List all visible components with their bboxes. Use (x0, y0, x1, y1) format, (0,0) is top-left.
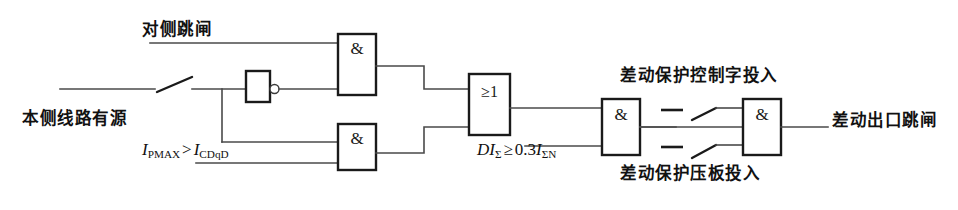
formula-disigma-operator: ≥ (501, 140, 514, 159)
formula-ipmax-operator: > (180, 140, 194, 159)
logic-diagram-canvas: & & ≥1 & & (0, 0, 958, 210)
formula-current-compare: IPMAX>ICDqD (142, 140, 229, 160)
label-diff-output-trip: 差动出口跳闸 (832, 107, 937, 131)
wire-and2-to-or1 (376, 127, 469, 153)
label-diff-plate-in: 差动保护压板投入 (620, 160, 760, 184)
and-gate-2-symbol: & (350, 129, 363, 148)
formula-disigma-lhs-prefix: DI (477, 140, 495, 159)
not-gate-1-bubble (270, 85, 279, 94)
formula-disigma-coefficient: 0.3 (515, 140, 536, 159)
open-contact-main-blade[interactable] (157, 77, 192, 92)
not-gate-1-body (246, 71, 270, 102)
label-diff-control-word-in: 差动保护控制字投入 (620, 62, 778, 86)
formula-ipmax-rhs-sub: CDqD (199, 148, 228, 160)
label-opposite-trip: 对侧跳闸 (142, 16, 212, 40)
label-local-line-energized: 本侧线路有源 (22, 105, 127, 129)
and-gate-4-symbol: & (755, 105, 768, 124)
or-gate-1-symbol: ≥1 (481, 83, 498, 100)
formula-diff-threshold: DIΣ≥0.3IΣN (477, 140, 556, 160)
formula-ipmax-lhs-sub: PMAX (148, 148, 180, 160)
wire-and1-to-or1 (376, 66, 469, 89)
formula-disigma-rhs-sub: ΣN (542, 148, 557, 160)
and-gate-1-symbol: & (350, 39, 363, 58)
open-contact-plate-blade[interactable] (692, 145, 716, 158)
and-gate-3-symbol: & (614, 105, 627, 124)
open-contact-ctrl-word-blade[interactable] (692, 108, 716, 120)
